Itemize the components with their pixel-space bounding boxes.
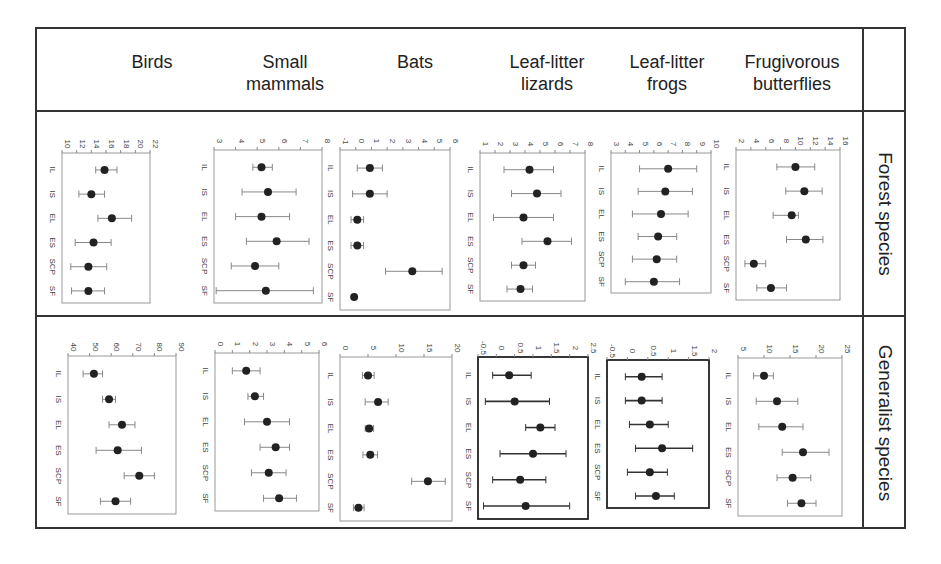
axis-tick-label: 7: [301, 139, 310, 144]
axis-tick-label: 9: [698, 142, 707, 147]
plots-layer: 10121416182022ILISELESSCPSF345678ILISELE…: [0, 0, 941, 564]
category-label: IL: [201, 368, 210, 375]
data-point: [353, 216, 361, 224]
category-label: EL: [48, 213, 57, 223]
data-point: [366, 190, 374, 198]
axis-tick-label: 0: [216, 342, 225, 347]
axis-tick-label: 6: [556, 142, 565, 147]
axis-tick-label: 5: [369, 346, 378, 351]
axis-tick-label: 10: [397, 344, 406, 353]
category-label: ES: [466, 236, 475, 247]
data-point: [778, 423, 786, 431]
axis-tick-label: 4: [526, 142, 535, 147]
axis-tick-label: 0.5: [649, 345, 658, 357]
category-label: SF: [326, 503, 335, 513]
category-label: ES: [48, 237, 57, 248]
dot-plot-panel: -0.500.511.52ILISELESSCPSF: [593, 344, 719, 508]
data-point: [650, 278, 658, 286]
data-point: [84, 263, 92, 271]
data-point: [354, 504, 362, 512]
axis-tick-label: 22: [151, 140, 160, 149]
axis-tick-label: 3: [511, 142, 520, 147]
category-label: EL: [722, 210, 731, 220]
category-label: SCP: [466, 257, 475, 273]
axis-tick-label: 4: [626, 142, 635, 147]
category-label: IS: [326, 398, 335, 406]
category-label: EL: [326, 424, 335, 434]
category-label: IL: [48, 167, 57, 174]
axis-tick-label: 1.5: [552, 342, 561, 354]
category-label: IL: [200, 164, 209, 171]
axis-tick-label: -0.5: [479, 341, 488, 355]
axis-tick-label: 10: [63, 140, 72, 149]
category-label: IS: [597, 188, 606, 196]
category-label: IL: [724, 373, 733, 380]
data-point: [105, 395, 113, 403]
category-label: SF: [597, 277, 606, 287]
axis-tick-label: -1: [341, 137, 350, 145]
axis-tick-label: 12: [811, 137, 820, 146]
data-point: [114, 446, 122, 454]
data-point: [760, 372, 768, 380]
axis-tick-label: 8: [323, 139, 332, 144]
axis-tick-label: 0: [341, 346, 350, 351]
axis-tick-label: 2.5: [589, 342, 598, 354]
category-label: ES: [724, 447, 733, 458]
data-point: [262, 287, 270, 295]
axis-tick-label: 6: [280, 139, 289, 144]
dot-plot-panel: 405060708090ILISELESSCPSF: [54, 343, 186, 514]
dot-plot-panel: -10123456ILISELESSCPSF: [326, 137, 460, 310]
data-point: [272, 443, 280, 451]
axis-tick-label: 8: [782, 139, 791, 144]
category-label: SF: [464, 501, 473, 511]
category-label: IS: [593, 397, 602, 405]
category-label: ES: [593, 443, 602, 454]
category-label: ES: [464, 448, 473, 459]
data-point: [275, 494, 283, 502]
category-label: EL: [326, 215, 335, 225]
data-point: [526, 166, 534, 174]
dot-plot-panel: 246810121416ILISELESSCPSF: [722, 137, 850, 300]
category-label: EL: [597, 209, 606, 219]
axis-tick-label: 40: [69, 343, 78, 352]
data-point: [87, 190, 95, 198]
data-point: [511, 397, 519, 405]
data-point: [251, 262, 259, 270]
axis-tick-label: 2: [251, 342, 260, 347]
axis-tick-label: 50: [91, 343, 100, 352]
category-label: IS: [464, 398, 473, 406]
dot-plot-panel: 345678910ILISELESSCPSF: [597, 140, 721, 293]
axis-tick-label: 8: [683, 142, 692, 147]
category-label: IL: [326, 372, 335, 379]
category-label: SF: [722, 283, 731, 293]
data-point: [353, 241, 361, 249]
data-point: [365, 424, 373, 432]
data-point: [242, 367, 250, 375]
data-point: [251, 392, 259, 400]
axis-tick-label: 3: [404, 139, 413, 144]
axis-tick-label: 20: [136, 140, 145, 149]
axis-tick-label: 1: [669, 349, 678, 354]
axis-tick-label: 7: [571, 142, 580, 147]
data-point: [520, 261, 528, 269]
axis-tick-label: 16: [107, 140, 116, 149]
axis-tick-label: 5: [641, 142, 650, 147]
data-point: [789, 474, 797, 482]
category-label: ES: [326, 240, 335, 251]
axis-tick-label: -0.5: [608, 344, 617, 358]
axis-tick-label: 6: [451, 139, 460, 144]
data-point: [658, 444, 666, 452]
category-label: IS: [54, 396, 63, 404]
axis-tick-label: 16: [841, 137, 850, 146]
category-label: EL: [724, 422, 733, 432]
category-label: ES: [597, 231, 606, 242]
axis-tick-label: 4: [285, 342, 294, 347]
axis-tick-label: 0.5: [516, 342, 525, 354]
axis-tick-label: 2: [496, 142, 505, 147]
dot-plot-panel: -0.500.511.522.5ILISELESSCPSF: [464, 341, 598, 519]
data-point: [90, 370, 98, 378]
data-point: [767, 284, 775, 292]
axis-tick-label: 80: [155, 343, 164, 352]
axis-tick-label: 18: [122, 140, 131, 149]
category-label: SCP: [326, 263, 335, 279]
